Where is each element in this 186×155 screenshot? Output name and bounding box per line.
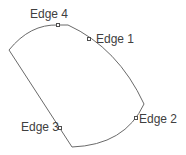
edge-2-label: Edge 2 bbox=[139, 113, 177, 125]
edge-1-marker[interactable] bbox=[88, 38, 91, 41]
edge-3-label: Edge 3 bbox=[21, 121, 59, 133]
edge-4-label: Edge 4 bbox=[30, 8, 68, 20]
edge-4-curve[interactable] bbox=[9, 25, 68, 50]
edge-1-label: Edge 1 bbox=[96, 33, 134, 45]
edge-2-marker[interactable] bbox=[135, 117, 138, 120]
edge-4-marker[interactable] bbox=[57, 24, 60, 27]
edge-2-curve[interactable] bbox=[72, 104, 144, 147]
